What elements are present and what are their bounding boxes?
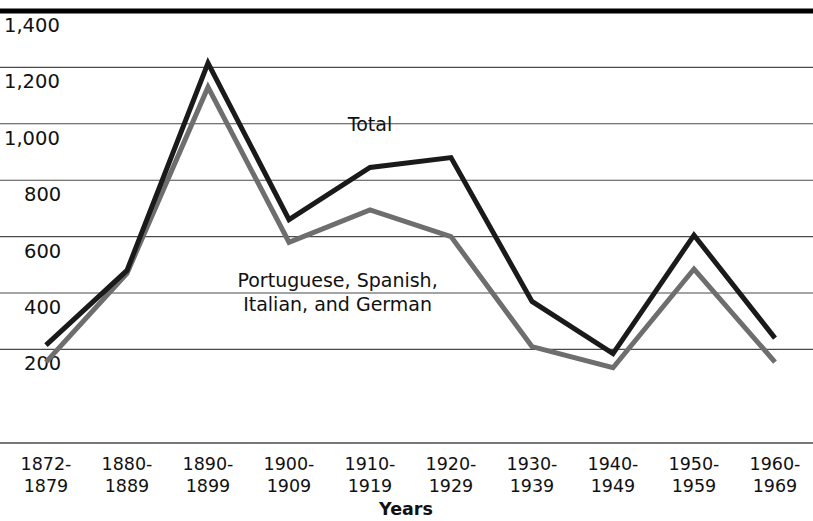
x-tick-label-line2: 1949 — [591, 476, 636, 496]
x-tick-label-line1: 1930- — [507, 454, 558, 474]
series-annotation-subgroup-line2: Italian, and German — [243, 293, 432, 315]
y-tick-label-1400: 1,400 — [4, 14, 60, 37]
y-tick-label-200: 200 — [24, 352, 61, 375]
x-tick-label-line2: 1879 — [24, 476, 69, 496]
x-tick-label-line2: 1919 — [348, 476, 393, 496]
x-tick-label-line2: 1939 — [510, 476, 555, 496]
y-tick-label-1200: 1,200 — [4, 70, 60, 93]
x-tick-label-line2: 1899 — [186, 476, 231, 496]
x-tick-label-line2: 1889 — [105, 476, 150, 496]
series-annotation-subgroup-line1: Portuguese, Spanish, — [237, 269, 437, 291]
y-tick-label-600: 600 — [24, 240, 61, 263]
x-axis-title: Years — [378, 499, 433, 519]
x-tick-label-line2: 1909 — [267, 476, 312, 496]
y-tick-label-800: 800 — [24, 183, 61, 206]
x-tick-label-line1: 1910- — [345, 454, 396, 474]
x-tick-label-line1: 1920- — [426, 454, 477, 474]
chart-container: 2004006008001,0001,2001,400 1872-1879188… — [0, 0, 813, 521]
series-annotation-total: Total — [347, 113, 392, 135]
line-chart: 2004006008001,0001,2001,400 1872-1879188… — [0, 0, 813, 521]
x-tick-label-line2: 1959 — [672, 476, 717, 496]
x-tick-label-line2: 1969 — [753, 476, 798, 496]
x-tick-label-line1: 1960- — [750, 454, 801, 474]
x-tick-label-line2: 1929 — [429, 476, 474, 496]
y-tick-label-1000: 1,000 — [4, 127, 60, 150]
x-tick-label-line1: 1890- — [183, 454, 234, 474]
x-tick-label-line1: 1950- — [669, 454, 720, 474]
x-tick-label-line1: 1940- — [588, 454, 639, 474]
x-tick-label-line1: 1900- — [264, 454, 315, 474]
x-tick-label-line1: 1872- — [21, 454, 72, 474]
x-tick-label-line1: 1880- — [102, 454, 153, 474]
y-tick-label-400: 400 — [24, 296, 61, 319]
